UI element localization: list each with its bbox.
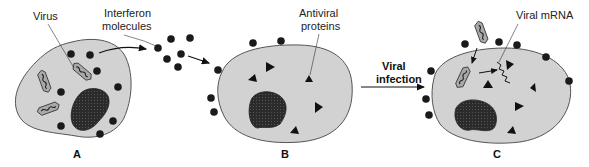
cell-b-nucleus — [249, 92, 286, 128]
antiviral-label-line2: proteins — [301, 20, 341, 32]
viral-mrna-label: Viral mRNA — [516, 9, 574, 21]
virus-icon — [474, 20, 489, 44]
cell-a — [15, 39, 131, 137]
viral-infection-label-line1: Viral — [382, 60, 406, 72]
panel-label-a: A — [73, 148, 81, 160]
cell-c-membrane — [432, 48, 571, 143]
interferon-leader-line — [124, 35, 156, 46]
cell-c — [422, 20, 573, 143]
antiviral-label-line1: Antiviral — [299, 7, 338, 19]
interferon-diagram: Virus Interferon molecules Antiviral pro… — [0, 0, 589, 167]
secreted-interferon-molecules — [154, 34, 194, 71]
viral-infection-label-line2: infection — [376, 73, 422, 85]
cell-b — [207, 37, 352, 142]
interferon-label-line1: Interferon — [104, 7, 151, 19]
panel-label-c: C — [493, 148, 501, 160]
cell-b-membrane — [218, 45, 353, 143]
panel-label-b: B — [281, 148, 289, 160]
virus-label: Virus — [33, 10, 58, 22]
binding-arrow — [188, 56, 209, 63]
interferon-label-line2: molecules — [102, 20, 152, 32]
